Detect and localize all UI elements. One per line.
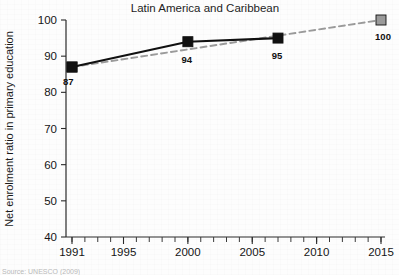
y-axis-tick-labels: 405060708090100 bbox=[38, 14, 57, 243]
y-tick-label: 50 bbox=[44, 195, 57, 207]
line-chart-svg: Latin America and Caribbean Net enrolmen… bbox=[0, 0, 399, 275]
y-tick-label: 100 bbox=[38, 14, 57, 26]
chart-title: Latin America and Caribbean bbox=[131, 2, 279, 14]
y-tick-label: 80 bbox=[44, 86, 57, 98]
chart-figure: Latin America and Caribbean Net enrolmen… bbox=[0, 0, 399, 275]
data-point-marker[interactable] bbox=[376, 15, 386, 25]
data-point-marker[interactable] bbox=[67, 62, 77, 72]
x-axis-tick-labels: 199119952000200520102015 bbox=[59, 246, 394, 258]
series-target-trajectory bbox=[72, 20, 381, 67]
data-point-marker[interactable] bbox=[183, 37, 193, 47]
source-note: Source: UNESCO (2009) bbox=[2, 268, 80, 275]
x-tick-label: 2015 bbox=[368, 246, 394, 258]
data-point-label: 100 bbox=[375, 31, 391, 42]
x-tick-label: 1995 bbox=[111, 246, 137, 258]
y-tick-label: 40 bbox=[44, 231, 57, 243]
x-tick-label: 1991 bbox=[59, 246, 85, 258]
data-point-label: 95 bbox=[272, 50, 283, 61]
data-point-label: 94 bbox=[182, 54, 193, 65]
x-tick-label: 2005 bbox=[239, 246, 265, 258]
x-tick-label: 2010 bbox=[304, 246, 330, 258]
y-tick-label: 60 bbox=[44, 159, 57, 171]
y-tick-label: 90 bbox=[44, 50, 57, 62]
x-axis-minor-ticks bbox=[72, 237, 381, 242]
data-point-label: 87 bbox=[63, 76, 74, 87]
x-tick-label: 2000 bbox=[175, 246, 201, 258]
y-axis-label: Net enrolment ratio in primary education bbox=[3, 31, 15, 227]
data-point-marker[interactable] bbox=[273, 33, 283, 43]
series-line-target-trajectory bbox=[72, 20, 381, 67]
y-axis-ticks bbox=[61, 20, 66, 237]
y-tick-label: 70 bbox=[44, 123, 57, 135]
